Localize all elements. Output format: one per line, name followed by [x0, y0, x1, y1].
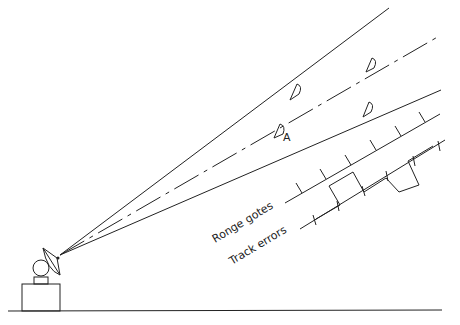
antenna-mount: [33, 260, 49, 276]
range-gate-ticks: [296, 112, 425, 193]
pedestal: [22, 284, 60, 311]
target-icon: [290, 84, 301, 100]
target-a-label: A: [283, 131, 291, 144]
beam-upper-edge: [60, 8, 389, 255]
ground-line: [8, 310, 442, 311]
radar-diagram: A Ronge gotes Track errors: [0, 0, 460, 325]
pedestal-neck: [34, 277, 48, 284]
target-icon: [363, 102, 373, 117]
target-icon: [366, 58, 376, 72]
beam-lower-edge: [60, 90, 441, 255]
